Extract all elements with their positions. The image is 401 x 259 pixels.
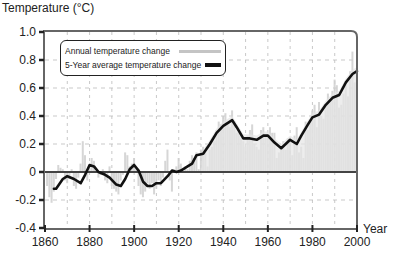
- svg-text:1980: 1980: [299, 235, 326, 249]
- svg-text:2000: 2000: [344, 235, 371, 249]
- svg-text:1920: 1920: [165, 235, 192, 249]
- svg-text:1860: 1860: [32, 235, 59, 249]
- legend-swatch-annual: [179, 50, 221, 53]
- svg-text:0.6: 0.6: [19, 81, 36, 95]
- svg-text:-0.4: -0.4: [15, 221, 36, 235]
- svg-text:1880: 1880: [76, 235, 103, 249]
- svg-text:1940: 1940: [210, 235, 237, 249]
- legend-swatch-five-year: [205, 63, 221, 67]
- temperature-chart: -0.4-0.200.20.40.60.81.0 186018801900192…: [0, 0, 401, 259]
- svg-text:0.2: 0.2: [19, 137, 36, 151]
- legend-item-annual: Annual temperature change: [65, 46, 170, 56]
- legend-label-five-year: 5-Year average temperature change: [65, 60, 201, 70]
- svg-text:1900: 1900: [121, 235, 148, 249]
- svg-text:1960: 1960: [255, 235, 282, 249]
- legend-item-five-year: 5-Year average temperature change: [65, 60, 201, 70]
- legend-label-annual: Annual temperature change: [65, 46, 170, 56]
- svg-text:0.8: 0.8: [19, 53, 36, 67]
- y-axis-ticks: -0.4-0.200.20.40.60.81.0: [15, 25, 44, 235]
- svg-text:-0.2: -0.2: [15, 193, 36, 207]
- svg-text:1.0: 1.0: [19, 25, 36, 39]
- legend: Annual temperature change 5-Year average…: [60, 40, 226, 76]
- svg-text:0.4: 0.4: [19, 109, 36, 123]
- svg-text:0: 0: [29, 165, 36, 179]
